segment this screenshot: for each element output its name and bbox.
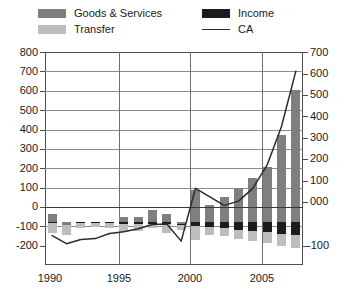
plot-area	[45, 52, 303, 265]
chart-container: Goods & Services Transfer Income CA 800 …	[0, 0, 349, 297]
y-axis-left-tick-500: 500	[0, 105, 38, 116]
chart-legend: Goods & Services Transfer Income CA	[0, 4, 349, 38]
y-axis-right-tick-400: 400	[310, 111, 328, 122]
tick-left-0	[40, 207, 45, 208]
legend-label-transfer: Transfer	[74, 24, 115, 35]
legend-label-ca: CA	[238, 24, 253, 35]
tick-left-m100	[40, 226, 45, 227]
tick-right-700	[303, 52, 308, 53]
y-axis-left-tick-600: 600	[0, 85, 38, 96]
legend-swatch-transfer	[38, 25, 66, 34]
tick-left-m200	[40, 246, 45, 247]
legend-item-transfer: Transfer	[38, 24, 115, 35]
x-axis-tick-1990: 1990	[30, 273, 70, 284]
y-axis-right-tick-200: 200	[310, 153, 328, 164]
y-axis-left-tick-400: 400	[0, 124, 38, 135]
y-axis-left-tick-m200: -200	[0, 240, 38, 251]
y-axis-right-tick-500: 500	[310, 89, 328, 100]
tick-left-300	[40, 149, 45, 150]
legend-swatch-goods-services	[38, 9, 66, 18]
tick-right-100	[303, 181, 308, 182]
y-axis-left-tick-700: 700	[0, 66, 38, 77]
y-axis-left-tick-300: 300	[0, 143, 38, 154]
ca-line-series	[45, 52, 303, 265]
tick-right-200	[303, 159, 308, 160]
x-axis-tick-1995: 1995	[99, 273, 139, 284]
legend-item-income: Income	[202, 8, 274, 19]
legend-item-goods-services: Goods & Services	[38, 8, 162, 19]
x-axis-tick-2005: 2005	[242, 273, 282, 284]
y-axis-left-tick-100: 100	[0, 182, 38, 193]
tick-left-200	[40, 168, 45, 169]
legend-item-ca: CA	[202, 24, 253, 35]
tick-right-m100	[303, 246, 308, 247]
y-axis-left-tick-200: 200	[0, 163, 38, 174]
tick-left-500	[40, 110, 45, 111]
legend-swatch-income	[202, 9, 230, 18]
legend-label-income: Income	[238, 8, 274, 19]
y-axis-left-tick-800: 800	[0, 47, 38, 58]
tick-right-400	[303, 116, 308, 117]
tick-right-300	[303, 138, 308, 139]
y-axis-right-tick-700: 700	[310, 47, 328, 58]
tick-left-600	[40, 91, 45, 92]
y-axis-right-tick-300: 300	[310, 132, 328, 143]
tick-right-000	[303, 202, 308, 203]
y-axis-right-tick-100: 100	[310, 175, 328, 186]
y-axis-right-tick-m100: -100	[307, 240, 329, 251]
tick-right-600	[303, 74, 308, 75]
legend-label-goods-services: Goods & Services	[74, 8, 162, 19]
y-axis-left-tick-0: 0	[0, 201, 38, 212]
legend-line-ca	[202, 29, 230, 30]
y-axis-right-tick-600: 600	[310, 68, 328, 79]
tick-left-100	[40, 188, 45, 189]
tick-left-700	[40, 71, 45, 72]
y-axis-left-tick-m100: -100	[0, 221, 38, 232]
y-axis-right-tick-000: 000	[310, 196, 328, 207]
x-axis-tick-2000: 2000	[170, 273, 210, 284]
tick-left-400	[40, 130, 45, 131]
tick-left-800	[40, 52, 45, 53]
tick-right-500	[303, 95, 308, 96]
